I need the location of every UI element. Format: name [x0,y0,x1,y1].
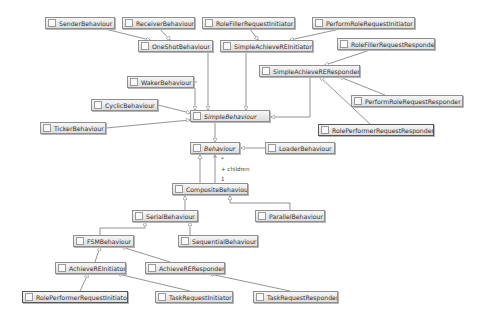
uml-class-diagram: SenderBehaviour ReceiverBehaviour RoleFi… [0,0,485,321]
class-achieve-re-responder[interactable]: AchieveREResponder [145,262,225,274]
class-label: FSMBehaviour [87,238,131,245]
class-icon [258,212,266,220]
class-icon [205,19,213,27]
class-label: PerformRoleRequestResponder [365,98,461,105]
class-icon [141,42,149,50]
class-label: SerialBehaviour [146,213,195,220]
class-icon [25,293,33,301]
class-icon [193,144,201,152]
class-simple-behaviour[interactable]: SimpleBehaviour [190,110,270,122]
class-icon [76,237,84,245]
class-sequential-behaviour[interactable]: SequentialBehaviour [178,235,258,247]
class-label: RoleFillerRequestInitiator [216,20,293,27]
class-simple-achieve-re-initiator[interactable]: SimpleAchieveREInitiator [220,40,313,52]
class-icon [94,101,102,109]
class-icon [135,212,143,220]
class-icon [175,185,183,193]
class-label: TickerBehaviour [54,125,104,132]
class-label: RoleFillerRequestResponder [351,41,435,48]
class-perform-role-request-initiator[interactable]: PerformRoleRequestInitiator [312,17,415,29]
class-icon [125,19,133,27]
class-simple-achieve-re-responder[interactable]: SimpleAchieveREResponder [259,65,360,77]
class-task-request-responder[interactable]: TaskRequestResponder [253,291,338,303]
class-icon [193,112,201,120]
class-role-filler-request-initiator[interactable]: RoleFillerRequestInitiator [202,17,295,29]
class-icon [268,144,276,152]
class-label: SimpleBehaviour [204,113,257,120]
class-one-shot-behaviour[interactable]: OneShotBehaviour [138,40,213,52]
class-cyclic-behaviour[interactable]: CyclicBehaviour [91,99,158,111]
class-role-performer-request-initiator[interactable]: RolePerformerRequestInitiator [22,291,128,303]
class-icon [354,97,362,105]
class-waker-behaviour[interactable]: WakerBehaviour [127,76,194,88]
class-icon [223,42,231,50]
class-label: CompositeBehaviour [186,186,248,193]
class-role-filler-request-responder[interactable]: RoleFillerRequestResponder [337,38,435,50]
class-perform-role-request-responder[interactable]: PerformRoleRequestResponder [351,95,463,107]
class-icon [158,293,166,301]
class-label: SenderBehaviour [59,20,112,27]
class-icon [148,264,156,272]
class-icon [340,40,348,48]
class-icon [181,237,189,245]
class-ticker-behaviour[interactable]: TickerBehaviour [40,122,106,134]
class-label: RolePerformerRequestResponder [332,127,434,134]
class-label: SimpleAchieveREInitiator [234,43,312,50]
class-label: AchieveREResponder [159,265,225,272]
class-parallel-behaviour[interactable]: ParallelBehaviour [255,210,325,222]
class-receiver-behaviour[interactable]: ReceiverBehaviour [122,17,195,29]
class-icon [48,19,56,27]
class-label: CyclicBehaviour [105,102,155,109]
class-icon [315,19,323,27]
class-loader-behaviour[interactable]: LoaderBehaviour [265,142,335,154]
class-label: Behaviour [204,145,235,152]
class-role-performer-request-responder[interactable]: RolePerformerRequestResponder [318,124,434,136]
multiplicity-source: 1 [221,176,225,182]
class-label: PerformRoleRequestInitiator [326,20,413,27]
multiplicity-target: * [221,156,224,162]
class-fsm-behaviour[interactable]: FSMBehaviour [73,235,134,247]
class-label: SimpleAchieveREResponder [273,68,360,75]
class-label: AchieveREInitiator [69,265,126,272]
class-label: ParallelBehaviour [269,213,323,220]
class-label: ReceiverBehaviour [136,20,194,27]
class-label: OneShotBehaviour [152,43,210,50]
association-role-label: + children [221,166,249,172]
class-icon [58,264,66,272]
class-label: WakerBehaviour [141,79,192,86]
class-serial-behaviour[interactable]: SerialBehaviour [132,210,198,222]
class-icon [321,126,329,134]
class-icon [256,293,264,301]
class-icon [262,67,270,75]
class-label: TaskRequestResponder [267,294,338,301]
class-label: LoaderBehaviour [279,145,332,152]
class-sender-behaviour[interactable]: SenderBehaviour [45,17,115,29]
class-task-request-initiator[interactable]: TaskRequestInitiator [155,291,233,303]
class-composite-behaviour[interactable]: CompositeBehaviour [172,183,248,195]
class-behaviour[interactable]: Behaviour [190,142,240,154]
class-label: SequentialBehaviour [192,238,256,245]
class-achieve-re-initiator[interactable]: AchieveREInitiator [55,262,126,274]
class-icon [43,124,51,132]
class-icon [130,78,138,86]
class-label: RolePerformerRequestInitiator [36,294,128,301]
class-label: TaskRequestInitiator [169,294,232,301]
